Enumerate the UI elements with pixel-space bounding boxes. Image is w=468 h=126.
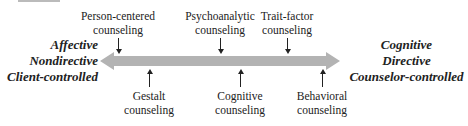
label-cognitive: Cognitive counseling xyxy=(215,89,265,117)
arrow-down-icon xyxy=(116,49,122,54)
counseling-continuum-diagram: Affective Nondirective Client-controlled… xyxy=(0,0,468,126)
label-psychoanalytic: Psychoanalytic counseling xyxy=(185,9,255,37)
arrow-behavioral xyxy=(322,73,323,87)
arrow-gestalt xyxy=(149,73,150,87)
arrow-down-icon xyxy=(285,49,291,54)
label-behavioral: Behavioral counseling xyxy=(297,89,347,117)
label-trait-factor: Trait-factor counseling xyxy=(261,9,314,37)
left-pole-label: Affective Nondirective Client-controlled xyxy=(7,37,98,85)
arrow-cognitive xyxy=(240,73,241,87)
label-person-centered: Person-centered counseling xyxy=(81,9,155,37)
label-gestalt: Gestalt counseling xyxy=(124,89,174,117)
arrow-down-icon xyxy=(218,49,224,54)
right-pole-label: Cognitive Directive Counselor-controlled xyxy=(345,37,468,85)
